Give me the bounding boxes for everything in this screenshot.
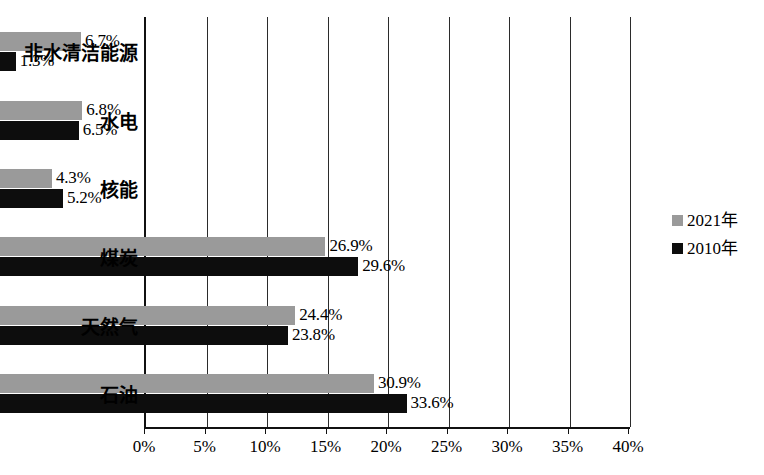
x-axis-tick-label: 35% xyxy=(538,437,598,457)
x-axis-line xyxy=(144,427,630,429)
x-axis-tick xyxy=(507,427,508,434)
bar-value-label: 23.8% xyxy=(292,325,335,344)
x-axis-tick-label: 5% xyxy=(175,437,235,457)
gridline xyxy=(388,17,389,427)
gridline xyxy=(630,17,631,427)
x-axis-tick xyxy=(326,427,327,434)
legend-swatch-icon xyxy=(672,215,683,226)
category-label: 煤炭 xyxy=(0,243,138,270)
category-label: 水电 xyxy=(0,107,138,134)
gridline xyxy=(570,17,571,427)
category-label: 核能 xyxy=(0,175,138,202)
category-label: 天然气 xyxy=(0,312,138,339)
x-axis-tick-label: 15% xyxy=(296,437,356,457)
bar-value-label: 24.4% xyxy=(299,305,342,324)
x-axis-tick-label: 30% xyxy=(477,437,537,457)
bar-value-label: 26.9% xyxy=(329,236,372,255)
category-label: 石油 xyxy=(0,380,138,407)
bar-value-label: 29.6% xyxy=(362,256,405,275)
x-axis-tick xyxy=(386,427,387,434)
x-axis-tick xyxy=(265,427,266,434)
gridline xyxy=(449,17,450,427)
x-axis-tick-label: 20% xyxy=(356,437,416,457)
x-axis-tick-label: 0% xyxy=(114,437,174,457)
x-axis-tick xyxy=(447,427,448,434)
gridline xyxy=(509,17,510,427)
gridline xyxy=(328,17,329,427)
bar-value-label: 33.6% xyxy=(411,393,454,412)
x-axis-tick xyxy=(568,427,569,434)
x-axis-tick-label: 25% xyxy=(417,437,477,457)
x-axis-tick xyxy=(144,427,145,434)
category-label: 非水清洁能源 xyxy=(0,38,138,65)
gridline xyxy=(267,17,268,427)
plot-area xyxy=(144,17,630,427)
legend-item[interactable]: 2021年 xyxy=(672,206,738,234)
x-axis-tick xyxy=(205,427,206,434)
gridline xyxy=(207,17,208,427)
bar-value-label: 30.9% xyxy=(378,373,421,392)
legend-label: 2021年 xyxy=(687,212,738,229)
x-axis-tick xyxy=(628,427,629,434)
x-axis-tick-label: 10% xyxy=(235,437,295,457)
x-axis-tick-label: 40% xyxy=(598,437,658,457)
bar-chart: 2021年2010年 0%5%10%15%20%25%30%35%40%6.7%… xyxy=(0,0,764,475)
